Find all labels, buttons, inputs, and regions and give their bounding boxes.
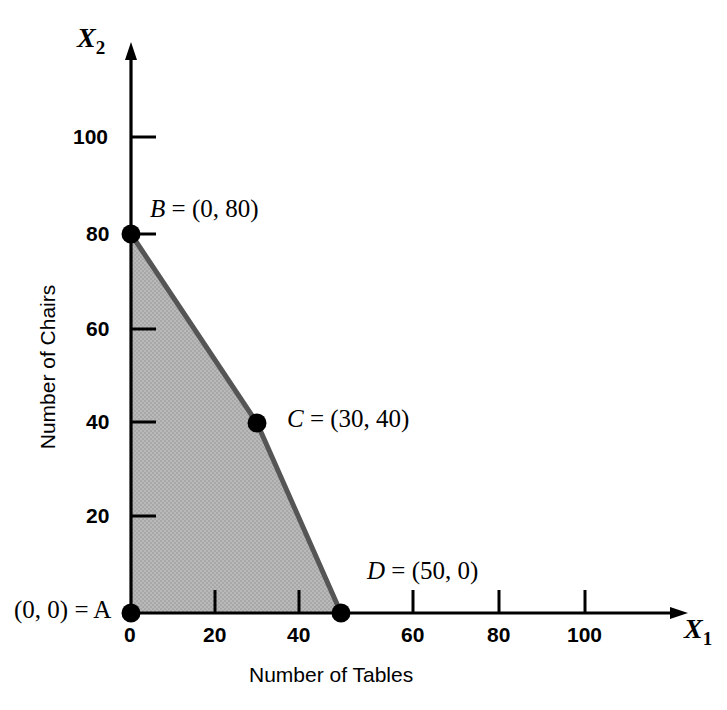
y-tick-label-20: 20 (86, 505, 109, 526)
x-axis-variable-label: X1 (684, 615, 712, 648)
vertex-dot-b[interactable] (122, 225, 141, 244)
x-tick-label-20: 20 (203, 624, 226, 645)
vertex-label-b: B = (0, 80) (150, 196, 259, 221)
x-axis-title: Number of Tables (249, 664, 413, 685)
y-tick-label-40: 40 (86, 411, 109, 432)
y-axis-title: Number of Chairs (36, 285, 59, 450)
y-axis-variable-label: X2 (77, 24, 105, 57)
linear-programming-feasible-region-chart: X2 X1 Number of Chairs Number of Tables … (0, 0, 727, 710)
vertex-dot-a[interactable] (122, 604, 141, 623)
vertex-label-c: C = (30, 40) (287, 406, 409, 431)
y-tick-label-60: 60 (86, 318, 109, 339)
y-tick-label-100: 100 (73, 126, 108, 147)
vertex-dot-d[interactable] (332, 604, 351, 623)
x-tick-label-0: 0 (124, 624, 136, 645)
y-axis-title-wrapper: Number of Chairs (36, 257, 60, 477)
x-tick-label-80: 80 (487, 624, 510, 645)
y-tick-label-80: 80 (86, 223, 109, 244)
x-tick-label-60: 60 (401, 624, 424, 645)
vertex-dot-c[interactable] (248, 414, 267, 433)
x-tick-label-100: 100 (567, 624, 602, 645)
vertex-label-d: D = (50, 0) (367, 558, 478, 583)
x-tick-label-40: 40 (287, 624, 310, 645)
y-axis-arrowhead (125, 42, 137, 60)
vertex-label-a: (0, 0) = A (14, 597, 111, 622)
